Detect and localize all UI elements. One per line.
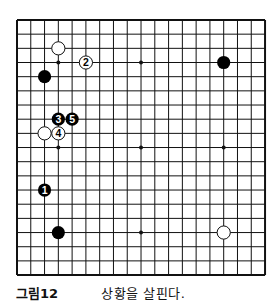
- star-point: [139, 231, 143, 235]
- star-point: [139, 146, 143, 150]
- move-number: 1: [42, 184, 48, 196]
- star-point: [139, 61, 143, 65]
- white-stone-move-2: 2: [79, 56, 92, 69]
- move-number: 2: [83, 56, 89, 68]
- black-stone-move-5: 5: [66, 113, 79, 126]
- figure-caption: 상황을 살핀다.: [101, 283, 185, 302]
- white-stone: [38, 127, 51, 140]
- go-board: 23541: [0, 0, 278, 280]
- black-stone-move-3: 3: [52, 113, 65, 126]
- move-number: 3: [55, 113, 61, 125]
- star-point: [56, 61, 60, 65]
- stones-layer: 23541: [38, 42, 230, 239]
- star-point: [222, 146, 226, 150]
- black-stone: [217, 56, 230, 69]
- figure-label: 그림12: [16, 283, 58, 302]
- black-stone-move-1: 1: [38, 183, 51, 196]
- white-stone: [217, 226, 230, 239]
- black-stone: [38, 70, 51, 83]
- move-number: 4: [55, 127, 61, 139]
- black-stone: [52, 226, 65, 239]
- star-point: [56, 146, 60, 150]
- move-number: 5: [69, 113, 75, 125]
- white-stone-move-4: 4: [52, 127, 65, 140]
- white-stone: [52, 42, 65, 55]
